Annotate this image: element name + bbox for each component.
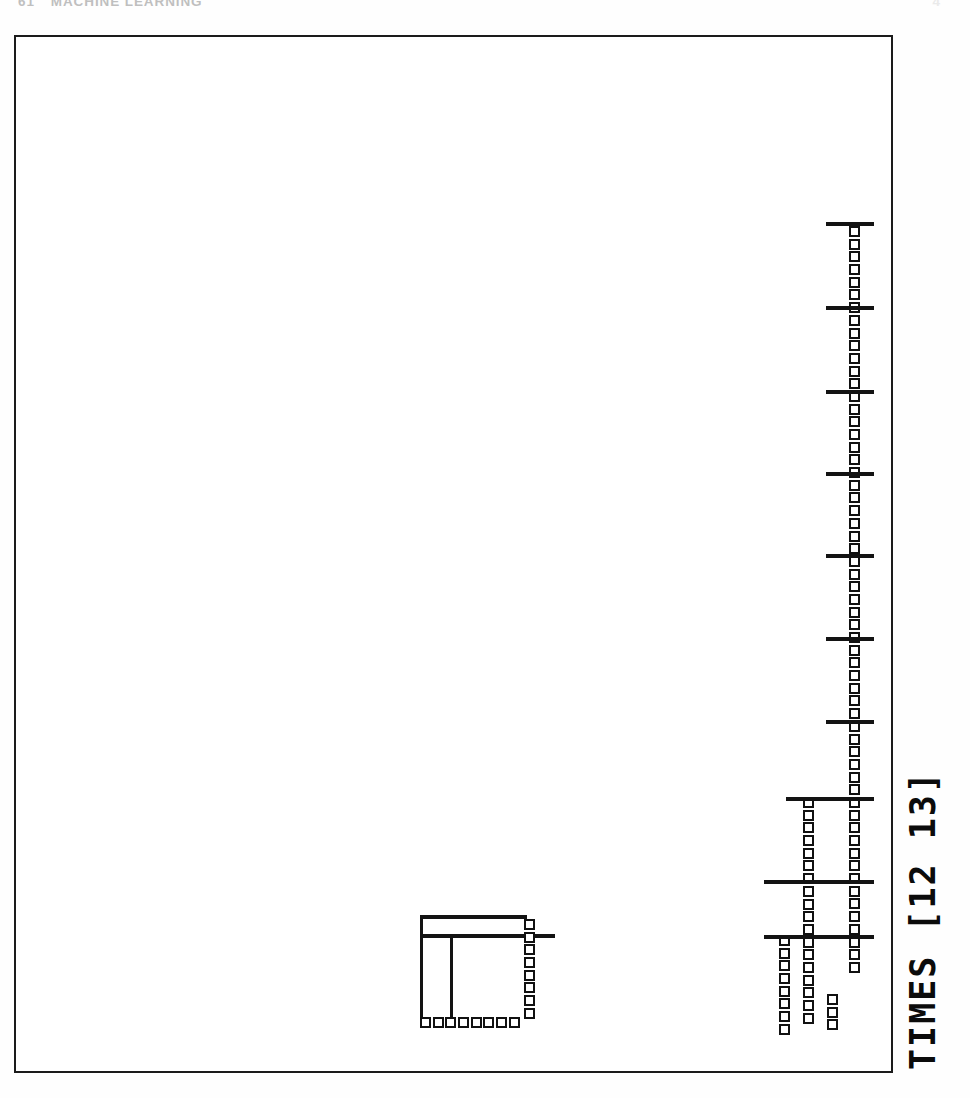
bar-marker [849, 277, 860, 288]
bar-marker [803, 987, 814, 998]
bar-marker [849, 315, 860, 326]
bar-marker [524, 957, 535, 968]
tick-rule [826, 720, 874, 724]
tick-rule [826, 222, 874, 226]
bar-marker [849, 404, 860, 415]
chart-bar [848, 226, 861, 975]
bar-marker [849, 810, 860, 821]
bar-marker [849, 708, 860, 719]
axis-label-text: TIMES [12 13] [903, 770, 943, 1070]
bar-marker [803, 873, 814, 884]
bar-marker [803, 949, 814, 960]
bar-marker [803, 822, 814, 833]
bar-marker [827, 1019, 838, 1030]
bar-marker [849, 467, 860, 478]
bar-marker [849, 607, 860, 618]
rule-marker [420, 1017, 431, 1028]
bar-marker [524, 944, 535, 955]
bar-marker [849, 848, 860, 859]
bar-marker [849, 378, 860, 389]
tick-rule [826, 637, 874, 641]
bar-marker [849, 924, 860, 935]
bar-marker [779, 935, 790, 946]
running-head-folio: 61 [18, 0, 35, 9]
bar-marker [803, 1013, 814, 1024]
bar-marker [849, 772, 860, 783]
bar-marker [849, 353, 860, 364]
bar-marker [803, 810, 814, 821]
bar-marker [849, 531, 860, 542]
bar-marker [849, 289, 860, 300]
bar-marker [779, 1011, 790, 1022]
document-page: 61MACHINE LEARNING 4 TIMES [12 13] [0, 0, 970, 1098]
rule-marker [458, 1017, 469, 1028]
bar-marker [524, 919, 535, 930]
bar-marker [803, 937, 814, 948]
rule-marker [433, 1017, 444, 1028]
bar-marker [849, 264, 860, 275]
bar-marker [849, 886, 860, 897]
bar-marker [524, 982, 535, 993]
chart-bar [523, 919, 536, 1021]
dotted-rule [420, 1016, 522, 1029]
bar-marker [779, 948, 790, 959]
bar-marker [849, 746, 860, 757]
bar-marker [849, 581, 860, 592]
bar-marker [524, 1008, 535, 1019]
bar-marker [827, 1007, 838, 1018]
bar-marker [779, 986, 790, 997]
bar-marker [849, 328, 860, 339]
bar-marker [849, 340, 860, 351]
bar-marker [803, 797, 814, 808]
box-top-rule [420, 915, 527, 919]
tick-rule [764, 935, 874, 939]
box-inner-rule [450, 934, 453, 1024]
bar-marker [849, 822, 860, 833]
running-head-right-folio: 4 [932, 0, 940, 9]
bar-marker [849, 657, 860, 668]
bar-marker [803, 975, 814, 986]
bar-marker [849, 797, 860, 808]
bar-marker [849, 695, 860, 706]
bar-marker [849, 594, 860, 605]
bar-marker [849, 391, 860, 402]
bar-marker [849, 556, 860, 567]
bar-marker [803, 899, 814, 910]
bar-marker [849, 784, 860, 795]
figure-frame [14, 35, 893, 1073]
bar-marker [803, 835, 814, 846]
bar-marker [849, 860, 860, 871]
bar-marker [849, 518, 860, 529]
tick-rule [826, 306, 874, 310]
rule-marker [445, 1017, 456, 1028]
plot-area [16, 37, 895, 1075]
tick-rule [764, 880, 874, 884]
bar-marker [803, 1000, 814, 1011]
bar-marker [779, 973, 790, 984]
bar-marker [803, 848, 814, 859]
bar-marker [849, 949, 860, 960]
bar-marker [779, 998, 790, 1009]
tick-rule [786, 797, 874, 801]
chart-bar [778, 935, 791, 1037]
tick-rule [826, 390, 874, 394]
chart-bar [802, 797, 815, 1025]
bar-marker [849, 543, 860, 554]
rule-marker [496, 1017, 507, 1028]
bar-marker [849, 226, 860, 237]
bar-marker [849, 734, 860, 745]
bar-marker [849, 721, 860, 732]
bar-marker [849, 251, 860, 262]
bar-marker [849, 911, 860, 922]
bar-marker [849, 873, 860, 884]
bar-marker [849, 569, 860, 580]
bar-marker [849, 835, 860, 846]
bar-marker [849, 619, 860, 630]
bar-marker [849, 429, 860, 440]
box-second-rule [420, 934, 555, 938]
bar-marker [803, 860, 814, 871]
running-head: 61MACHINE LEARNING [18, 0, 202, 9]
bar-marker [849, 480, 860, 491]
bar-marker [849, 670, 860, 681]
chart-bar [826, 994, 839, 1032]
